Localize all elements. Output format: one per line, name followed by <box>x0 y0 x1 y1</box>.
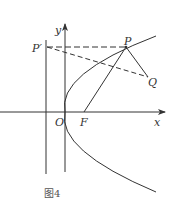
point-p-prime-label: P′ <box>31 42 42 55</box>
segment-pq <box>126 47 148 77</box>
parabola-diagram: y x O F P P′ Q 图4 <box>0 0 174 211</box>
y-axis-label: y <box>54 24 62 37</box>
point-p-label: P <box>123 35 132 48</box>
point-q-label: Q <box>148 76 157 89</box>
figure-caption: 图4 <box>44 188 60 199</box>
x-axis-label: x <box>154 116 161 129</box>
focus-label: F <box>79 116 88 129</box>
segment-p-prime-q <box>47 47 148 77</box>
parabola-curve <box>64 36 156 192</box>
segment-fp <box>84 47 126 112</box>
origin-label: O <box>55 116 64 129</box>
